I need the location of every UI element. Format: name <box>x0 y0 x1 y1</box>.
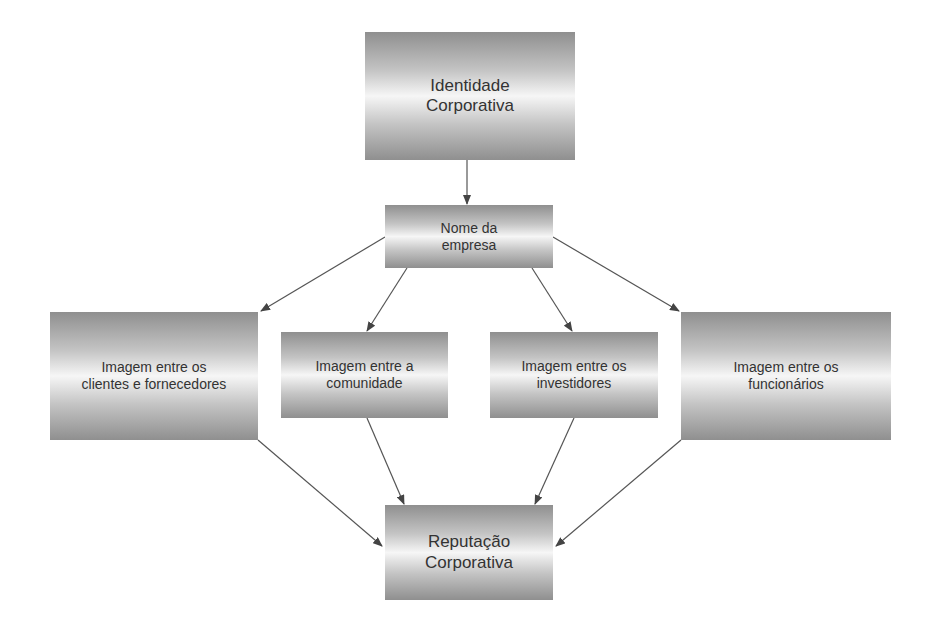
edge-nome-funcionarios <box>553 237 679 311</box>
node-imagem-funcionarios: Imagem entre os funcionários <box>681 312 891 440</box>
node-label: Identidade Corporativa <box>426 76 514 117</box>
edge-nome-investidores <box>532 268 572 331</box>
edge-clientes-reputacao <box>258 440 382 546</box>
node-imagem-clientes-fornecedores: Imagem entre os clientes e fornecedores <box>50 312 258 440</box>
node-reputacao-corporativa: Reputação Corporativa <box>385 505 553 600</box>
node-imagem-investidores: Imagem entre os investidores <box>490 332 658 418</box>
edge-comunidade-reputacao <box>367 418 404 504</box>
edge-nome-clientes <box>261 237 385 311</box>
node-label: Nome da empresa <box>441 220 498 254</box>
node-label: Imagem entre os investidores <box>521 358 626 392</box>
edge-funcionarios-reputacao <box>556 440 681 546</box>
node-label: Imagem entre os clientes e fornecedores <box>82 359 227 393</box>
edge-nome-comunidade <box>367 268 407 331</box>
node-label: Reputação Corporativa <box>425 532 513 573</box>
node-label: Imagem entre a comunidade <box>315 358 413 392</box>
node-identidade-corporativa: Identidade Corporativa <box>365 32 575 160</box>
node-nome-da-empresa: Nome da empresa <box>385 205 553 268</box>
edge-investidores-reputacao <box>535 418 574 504</box>
node-label: Imagem entre os funcionários <box>733 359 838 393</box>
node-imagem-comunidade: Imagem entre a comunidade <box>281 332 448 418</box>
